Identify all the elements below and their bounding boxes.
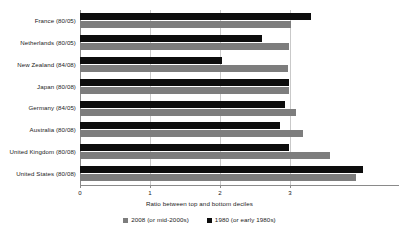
category-label: France (80/05) (0, 17, 76, 24)
bar-row (80, 32, 399, 54)
bar-rows (80, 10, 399, 185)
bar-1980 (80, 57, 222, 64)
legend-item: 2008 (or mid-2000s) (123, 216, 189, 224)
bar-2008 (80, 109, 296, 116)
bar-row (80, 98, 399, 120)
x-tick (80, 185, 81, 188)
bar-row (80, 10, 399, 32)
bar-row (80, 76, 399, 98)
x-tick (290, 185, 291, 188)
x-tick-label: 0 (78, 189, 81, 197)
chart-legend: 2008 (or mid-2000s)1980 (or early 1980s) (0, 216, 399, 224)
x-axis-line (80, 185, 399, 186)
category-label: Germany (84/05) (0, 104, 76, 111)
bar-1980 (80, 79, 289, 86)
bar-2008 (80, 130, 303, 137)
category-label: United States (80/08) (0, 170, 76, 177)
x-tick-label: 2 (218, 189, 221, 197)
bar-2008 (80, 87, 289, 94)
bar-1980 (80, 122, 280, 129)
x-tick (220, 185, 221, 188)
category-label: United Kingdom (80/08) (0, 148, 76, 155)
category-label: Japan (80/08) (0, 83, 76, 90)
x-tick (150, 185, 151, 188)
bar-2008 (80, 152, 330, 159)
x-axis-title: Ratio between top and bottom deciles (0, 200, 399, 208)
legend-swatch-icon (123, 218, 128, 223)
y-axis-category-labels: France (80/05)Netherlands (80/05)New Zea… (0, 10, 76, 185)
bar-chart: France (80/05)Netherlands (80/05)New Zea… (0, 0, 399, 240)
category-label: New Zealand (84/08) (0, 61, 76, 68)
bar-2008 (80, 21, 291, 28)
legend-label: 1980 (or early 1980s) (215, 216, 276, 224)
bar-row (80, 54, 399, 76)
x-tick-label: 3 (288, 189, 291, 197)
bar-1980 (80, 13, 311, 20)
bar-1980 (80, 166, 363, 173)
bar-row (80, 163, 399, 185)
bar-1980 (80, 35, 262, 42)
legend-label: 2008 (or mid-2000s) (131, 216, 189, 224)
bar-row (80, 119, 399, 141)
category-label: Netherlands (80/05) (0, 39, 76, 46)
category-label: Australia (80/08) (0, 126, 76, 133)
bar-1980 (80, 144, 289, 151)
bar-1980 (80, 101, 285, 108)
legend-item: 1980 (or early 1980s) (207, 216, 276, 224)
bar-2008 (80, 174, 356, 181)
legend-swatch-icon (207, 218, 212, 223)
bar-2008 (80, 43, 289, 50)
x-tick-label: 1 (148, 189, 151, 197)
bar-row (80, 141, 399, 163)
bar-2008 (80, 65, 288, 72)
x-axis: 0123 (80, 185, 399, 199)
plot-area (80, 10, 399, 185)
